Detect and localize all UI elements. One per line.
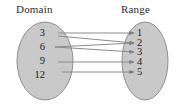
domain-node-9: 9 <box>23 56 45 67</box>
range-node-5: 5 <box>137 67 159 78</box>
domain-node-12: 12 <box>23 70 45 81</box>
domain-node-3: 3 <box>23 28 45 39</box>
mapping-diagram: Domain Range 36912 12345 <box>0 0 176 109</box>
domain-node-6: 6 <box>23 42 45 53</box>
